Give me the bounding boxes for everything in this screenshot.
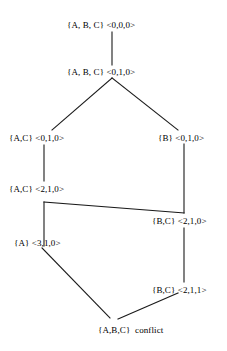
graph-edge <box>52 78 112 130</box>
graph-edge <box>42 248 110 318</box>
graph-node-n1[interactable]: {A, B, C} <0,1,0> <box>67 67 135 78</box>
graph-edge <box>44 202 184 213</box>
graph-node-label: {B} <0,1,0> <box>158 133 204 143</box>
graph-edge <box>118 293 178 319</box>
graph-node-n6[interactable]: {A} <3,1,0> <box>14 238 61 249</box>
graph-node-label: {B,C} <2,1,1> <box>152 285 207 295</box>
graph-node-label: {A,C} <0,1,0> <box>9 133 64 143</box>
diagram-canvas: {A, B, C} <0,0,0>{A, B, C} <0,1,0>{A,C} … <box>0 0 227 351</box>
graph-node-label: {B,C} <2,1,0> <box>152 216 207 226</box>
graph-node-label: {A,B,C} conflict <box>98 325 163 335</box>
graph-node-n2[interactable]: {A,C} <0,1,0> <box>9 133 64 144</box>
graph-node-label: {A, B, C} <0,0,0> <box>67 20 135 30</box>
graph-node-n8[interactable]: {A,B,C} conflict <box>98 325 163 336</box>
graph-node-label: {A} <3,1,0> <box>14 238 61 248</box>
graph-edge <box>112 78 178 130</box>
graph-node-label: {A, B, C} <0,1,0> <box>67 67 135 77</box>
edge-layer <box>0 0 227 351</box>
graph-node-label: {A,C} <2,1,0> <box>9 184 64 194</box>
graph-node-n5[interactable]: {B,C} <2,1,0> <box>152 216 207 227</box>
graph-node-n7[interactable]: {B,C} <2,1,1> <box>152 285 207 296</box>
graph-node-n4[interactable]: {A,C} <2,1,0> <box>9 184 64 195</box>
graph-node-n3[interactable]: {B} <0,1,0> <box>158 133 204 144</box>
graph-node-n0[interactable]: {A, B, C} <0,0,0> <box>67 20 135 31</box>
